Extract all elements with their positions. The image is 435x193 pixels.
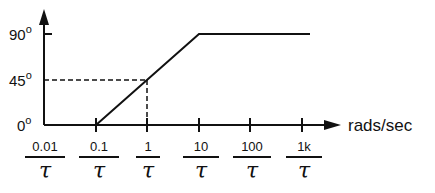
x-tick-label-1k: 1kτ <box>286 140 322 183</box>
x-axis-arrow-icon <box>324 120 341 130</box>
y-tick-label-45: 45o <box>9 71 32 88</box>
y-axis-arrow-icon <box>39 9 49 25</box>
x-tick-label-100: 100τ <box>233 140 271 183</box>
x-tick-label-1: 1τ <box>136 140 160 183</box>
x-axis-label: rads/sec <box>348 116 412 136</box>
y-tick-label-90: 90o <box>9 25 32 42</box>
x-tick-label-0.01: 0.01τ <box>25 140 65 183</box>
x-tick-label-0.1: 0.1τ <box>79 140 119 183</box>
phase-line <box>44 34 310 125</box>
x-tick-label-10: 10τ <box>183 140 219 183</box>
y-tick-label-0: 0o <box>17 116 31 133</box>
